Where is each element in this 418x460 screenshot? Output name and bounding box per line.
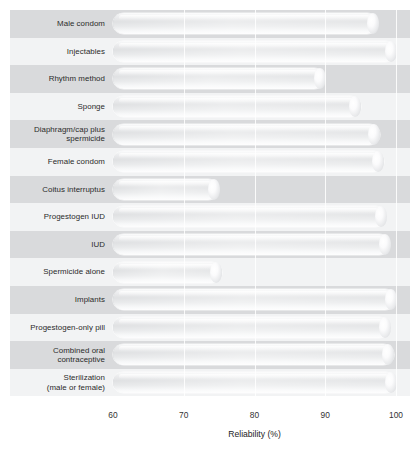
category-label-line: IUD	[91, 240, 105, 249]
bar[interactable]	[113, 13, 378, 34]
bar[interactable]	[113, 289, 396, 310]
bar-end-cap	[368, 124, 380, 145]
bar[interactable]	[113, 317, 390, 338]
category-label-line: Implants	[75, 295, 105, 304]
bar-highlight	[119, 346, 386, 351]
chart-row: Male condom	[0, 10, 418, 38]
category-label-line: Progestogen IUD	[44, 212, 105, 221]
chart-row: Progestogen-only pill	[0, 314, 418, 342]
category-label-line: Female condom	[48, 157, 105, 166]
bar[interactable]	[113, 234, 390, 255]
bar-track	[113, 206, 410, 227]
category-label: Sponge	[10, 93, 105, 121]
category-label-line: Male condom	[57, 19, 105, 28]
bar-end-cap	[367, 13, 379, 34]
category-label-line: Rhythm method	[49, 74, 105, 83]
bar-end-cap	[314, 68, 326, 89]
bar-track	[113, 41, 410, 62]
bar[interactable]	[113, 372, 396, 393]
category-label-line: contraceptive	[53, 355, 105, 364]
bar-highlight	[119, 153, 376, 158]
bar-track	[113, 344, 410, 365]
category-label: IUD	[10, 231, 105, 259]
category-label: Progestogen-only pill	[10, 314, 105, 342]
chart-row: Sponge	[0, 93, 418, 121]
x-axis-title: Reliability (%)	[113, 429, 396, 439]
bar-highlight	[119, 181, 211, 186]
chart-row: Injectables	[0, 38, 418, 66]
bar-highlight	[119, 374, 388, 379]
bar-highlight	[119, 15, 370, 20]
bar-track	[113, 13, 410, 34]
bar[interactable]	[113, 96, 361, 117]
x-tick-label-70: 70	[179, 410, 188, 420]
chart-row: Diaphragm/cap plusspermicide	[0, 120, 418, 148]
chart-row: IUD	[0, 231, 418, 259]
bar-highlight	[119, 319, 382, 324]
bar-track	[113, 317, 410, 338]
bar[interactable]	[113, 68, 325, 89]
bar-end-cap	[379, 317, 391, 338]
bar[interactable]	[113, 262, 222, 283]
bar[interactable]	[113, 41, 396, 62]
bar-highlight	[119, 208, 378, 213]
chart-row: Rhythm method	[0, 65, 418, 93]
category-label: Implants	[10, 286, 105, 314]
category-label: Spermicide alone	[10, 258, 105, 286]
bar[interactable]	[113, 206, 386, 227]
bar-track	[113, 68, 410, 89]
bar-track	[113, 372, 410, 393]
category-label: Diaphragm/cap plusspermicide	[10, 120, 105, 148]
bar-end-cap	[349, 96, 361, 117]
bar-highlight	[119, 291, 388, 296]
bar-end-cap	[375, 206, 387, 227]
bar-track	[113, 151, 410, 172]
bar-highlight	[119, 70, 317, 75]
bar-end-cap	[382, 344, 394, 365]
category-label: Sterilization(male or female)	[10, 369, 105, 397]
category-label: Female condom	[10, 148, 105, 176]
category-label-line: Spermicide alone	[43, 267, 105, 276]
chart-row: Coitus interruptus	[0, 176, 418, 204]
bar-track	[113, 96, 410, 117]
bar-end-cap	[210, 262, 222, 283]
bar-end-cap	[385, 41, 397, 62]
bar-track	[113, 262, 410, 283]
bar-highlight	[119, 264, 214, 269]
category-label: Rhythm method	[10, 65, 105, 93]
bar-end-cap	[379, 234, 391, 255]
bar-end-cap	[208, 179, 220, 200]
reliability-bar-chart: Male condomInjectablesRhythm methodSpong…	[0, 0, 418, 460]
category-label-line: Progestogen-only pill	[30, 323, 105, 332]
bar[interactable]	[113, 179, 219, 200]
bar-highlight	[119, 98, 353, 103]
category-label: Combined oralcontraceptive	[10, 341, 105, 369]
category-label-line: Injectables	[67, 47, 105, 56]
bar[interactable]	[113, 124, 380, 145]
category-label: Male condom	[10, 10, 105, 38]
bar-end-cap	[385, 289, 397, 310]
chart-row: Sterilization(male or female)	[0, 369, 418, 397]
bar-track	[113, 124, 410, 145]
bar-highlight	[119, 236, 382, 241]
category-label: Progestogen IUD	[10, 203, 105, 231]
bar-track	[113, 179, 410, 200]
category-label-line: Sterilization	[47, 373, 105, 382]
chart-rows: Male condomInjectablesRhythm methodSpong…	[0, 10, 418, 396]
bar[interactable]	[113, 344, 394, 365]
bar-track	[113, 289, 410, 310]
category-label-line: Coitus interruptus	[42, 185, 105, 194]
bar-track	[113, 234, 410, 255]
x-axis: 60 70 80 90 100 Reliability (%)	[0, 396, 418, 460]
chart-row: Combined oralcontraceptive	[0, 341, 418, 369]
bar-end-cap	[372, 151, 384, 172]
category-label-line: Sponge	[77, 102, 105, 111]
chart-row: Spermicide alone	[0, 258, 418, 286]
bar[interactable]	[113, 151, 384, 172]
category-label-line: (male or female)	[47, 383, 105, 392]
chart-row: Female condom	[0, 148, 418, 176]
chart-row: Progestogen IUD	[0, 203, 418, 231]
x-tick-label-90: 90	[321, 410, 330, 420]
bar-highlight	[119, 126, 372, 131]
category-label: Injectables	[10, 38, 105, 66]
